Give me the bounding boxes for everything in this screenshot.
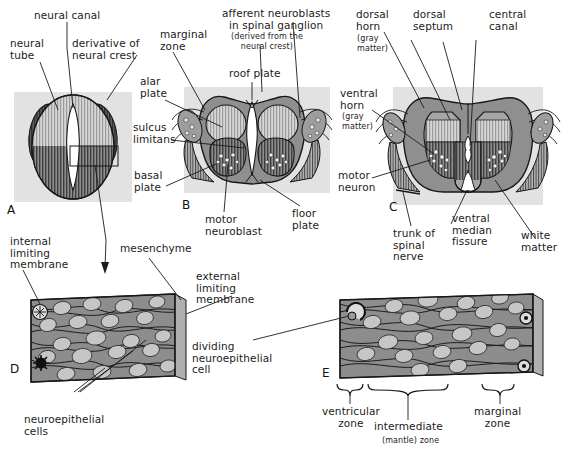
label-afferent-neuroblasts-note: (derived from the neural crest) xyxy=(231,32,303,51)
label-neuroepithelial-cells: neuroepithelial cells xyxy=(24,414,104,437)
label-intermediate-zone: intermediate xyxy=(374,421,443,433)
label-external-limiting-membrane: external limiting membrane xyxy=(196,271,254,306)
label-dorsal-horn: dorsal horn xyxy=(356,9,389,32)
label-dividing-neuroepithelial-cell: dividing neuroepithelial cell xyxy=(192,341,272,376)
label-marginal-zone-b: marginal zone xyxy=(160,29,207,52)
label-internal-limiting-membrane: internal limiting membrane xyxy=(10,236,68,271)
panel-letter-e: E xyxy=(322,366,330,380)
panel-b-plate xyxy=(184,87,330,193)
dividing-neuroepithelial-cell-marker xyxy=(347,303,365,320)
panel-a-plate xyxy=(14,92,132,202)
label-dorsal-horn-note: (gray matter) xyxy=(357,34,388,53)
panel-letter-a: A xyxy=(7,203,15,217)
label-trunk-of-spinal-nerve: trunk of spinal nerve xyxy=(393,228,435,263)
label-roof-plate: roof plate xyxy=(229,68,281,80)
zone-brackets xyxy=(337,384,514,396)
panel-d-drawing xyxy=(31,294,186,382)
label-alar-plate: alar plate xyxy=(140,76,167,99)
mitotic-star-cell xyxy=(33,355,49,371)
marginal-zone-cells xyxy=(518,312,532,372)
panel-c-plate xyxy=(393,87,543,205)
label-basal-plate: basal plate xyxy=(134,170,162,193)
label-floor-plate: floor plate xyxy=(292,208,319,231)
label-motor-neuron: motor neuron xyxy=(338,170,376,193)
panel-letter-c: C xyxy=(389,200,397,214)
label-sulcus-limitans: sulcus limitans xyxy=(133,122,175,145)
panel-letter-b: B xyxy=(182,198,190,212)
label-motor-neuroblast: motor neuroblast xyxy=(205,214,262,237)
label-intermediate-zone-note: (mantle) zone xyxy=(382,436,439,446)
dividing-cell-marker xyxy=(33,305,48,320)
label-neural-canal: neural canal xyxy=(34,10,100,22)
label-mesenchyme: mesenchyme xyxy=(120,243,192,255)
label-afferent-neuroblasts: afferent neuroblasts in spinal ganglion xyxy=(222,8,330,31)
label-ventral-horn: ventral horn xyxy=(340,88,378,111)
label-ventricular-zone: ventricular zone xyxy=(322,406,380,429)
label-neural-tube: neural tube xyxy=(10,38,44,61)
label-dorsal-septum: dorsal septum xyxy=(413,9,453,32)
label-central-canal: central canal xyxy=(489,9,526,32)
label-ventral-median-fissure: ventral median fissure xyxy=(452,213,492,248)
panel-letter-d: D xyxy=(10,362,19,376)
label-ventral-horn-note: (gray matter) xyxy=(342,112,373,131)
label-derivative-of-neural-crest: derivative of neural crest xyxy=(72,38,139,61)
label-white-matter: white matter xyxy=(521,230,557,253)
label-marginal-zone-e: marginal zone xyxy=(474,406,521,429)
panel-e-drawing xyxy=(337,291,543,396)
